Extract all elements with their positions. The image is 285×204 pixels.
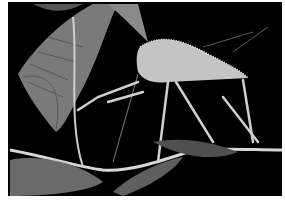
katydid-photo xyxy=(8,2,282,196)
photo xyxy=(8,2,282,196)
